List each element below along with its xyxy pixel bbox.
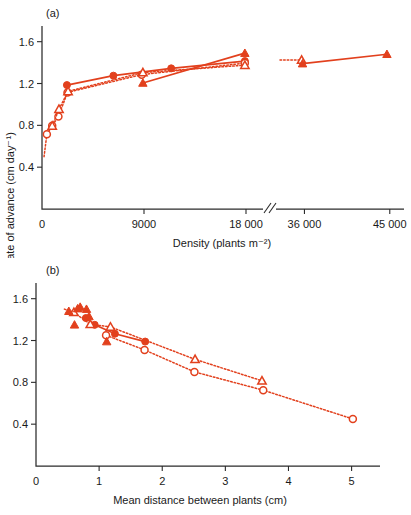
marker-filled-triangle: [241, 49, 249, 56]
marker-filled-circle: [111, 330, 118, 337]
series-open-circles: [103, 332, 357, 423]
marker-open-triangle: [48, 122, 56, 129]
x-tick-label: 45 000: [373, 218, 407, 230]
x-tick-label: 1: [96, 475, 102, 487]
y-tick-label: 0.8: [19, 119, 34, 131]
x-tick-label: 3: [222, 475, 228, 487]
series-open-triangles: [48, 56, 306, 129]
panel-a-xaxis-title: Density (plants m⁻²): [173, 237, 271, 249]
marker-filled-circle: [110, 72, 117, 79]
y-tick-label: 1.6: [13, 293, 28, 305]
y-tick-label: 0.4: [13, 418, 28, 430]
shared-yaxis-title: Rate of advance (cm day⁻¹): [4, 132, 16, 258]
marker-open-triangle: [106, 323, 114, 330]
y-tick-label: 1.6: [19, 36, 34, 48]
series-open-triangles: [64, 308, 266, 384]
x-tick-label: 0: [33, 475, 39, 487]
marker-open-circle: [141, 346, 148, 353]
marker-filled-circle: [63, 82, 70, 89]
panel-b-xaxis-title: Mean distance between plants (cm): [113, 494, 287, 506]
marker-filled-triangle: [70, 321, 78, 328]
panel-a-axes: [42, 26, 263, 209]
panel-b-svg: (b)0.40.81.21.6012345Mean distance betwe…: [0, 257, 411, 515]
marker-open-circle: [191, 368, 198, 375]
panel-a-label: (a): [46, 7, 59, 19]
y-tick-label: 1.2: [13, 335, 28, 347]
x-tick-label: 0: [39, 218, 45, 230]
panel-b-label: (b): [46, 264, 59, 276]
panel-a-svg: (a)0.40.81.21.60900018 00036 00045 000De…: [0, 0, 411, 258]
x-tick-label: 4: [285, 475, 291, 487]
y-tick-label: 1.2: [19, 78, 34, 90]
y-tick-label: 0.4: [19, 161, 34, 173]
marker-open-circle: [260, 387, 267, 394]
panel-b: (b)0.40.81.21.6012345Mean distance betwe…: [0, 257, 411, 515]
x-tick-label: 18 000: [229, 218, 263, 230]
panel-a-plot: (a)0.40.81.21.60900018 00036 00045 000De…: [0, 0, 411, 258]
x-tick-label: 9000: [132, 218, 156, 230]
series-line: [74, 312, 262, 380]
marker-open-circle: [349, 415, 356, 422]
panel-a: (a)0.40.81.21.60900018 00036 00045 000De…: [0, 0, 411, 258]
panel-b-plot: (b)0.40.81.21.6012345Mean distance betwe…: [0, 257, 411, 515]
marker-open-circle: [43, 131, 50, 138]
series-line: [143, 53, 245, 83]
marker-open-triangle: [191, 355, 199, 362]
x-tick-label: 5: [349, 475, 355, 487]
x-tick-label: 36 000: [288, 218, 322, 230]
y-tick-label: 0.8: [13, 376, 28, 388]
x-tick-label: 2: [159, 475, 165, 487]
marker-open-triangle: [258, 377, 266, 384]
marker-open-triangle: [139, 68, 147, 75]
series-line: [303, 54, 387, 63]
